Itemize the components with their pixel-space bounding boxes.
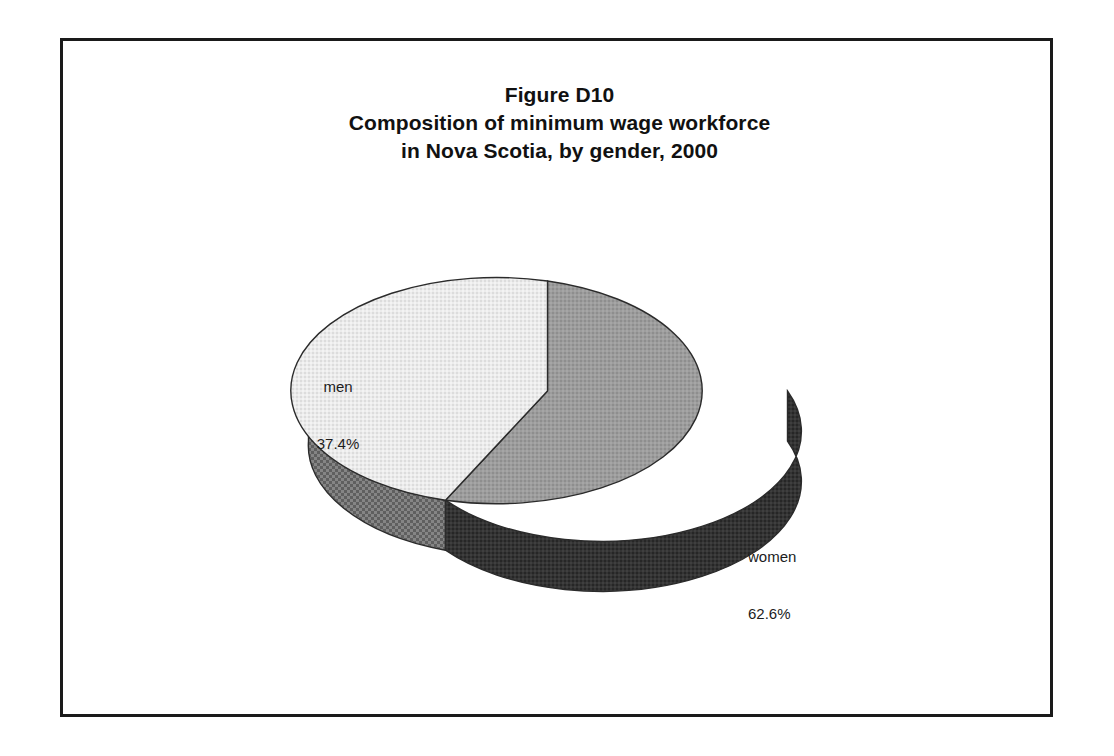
pie-label-women-name: women (748, 547, 898, 566)
figure-frame-border: Figure D10 Composition of minimum wage w… (60, 38, 1053, 717)
pie-label-women: women 62.6% (748, 509, 898, 661)
figure-root: Figure D10 Composition of minimum wage w… (0, 0, 1114, 756)
pie-label-women-value: 62.6% (748, 604, 898, 623)
pie-label-men-name: men (268, 377, 408, 396)
pie-label-men-value: 37.4% (268, 434, 408, 453)
pie-label-men: men 37.4% (268, 339, 408, 491)
pie-chart-area: men 37.4% women 62.6% (63, 41, 1056, 720)
